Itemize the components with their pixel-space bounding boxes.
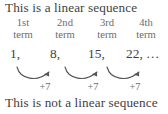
term-word-2: term [45, 29, 85, 41]
step-label-2: +7 [77, 81, 109, 93]
sequence-figure: This is a linear sequence 1st term 2nd t… [0, 0, 168, 114]
figure-caption-top: This is a linear sequence [5, 1, 137, 15]
term-header-3: 3rd term [87, 17, 127, 41]
step-label-3: +7 [119, 81, 151, 93]
term-word-4: term [126, 29, 166, 41]
sequence-value-4: 22, … [126, 45, 159, 63]
term-header-1: 1st term [3, 17, 43, 41]
term-word-3: term [87, 29, 127, 41]
term-header-4: 4th term [126, 17, 166, 41]
term-ordinal-2: 2nd [45, 17, 85, 29]
term-header-row: 1st term 2nd term 3rd term 4th term [0, 17, 168, 42]
term-word-1: term [3, 29, 43, 41]
figure-caption-bottom: This is not a linear sequence [5, 96, 158, 110]
term-header-2: 2nd term [45, 17, 85, 41]
sequence-value-3: 15, [88, 45, 105, 63]
sequence-value-2: 8, [50, 45, 60, 63]
term-ordinal-4: 4th [126, 17, 166, 29]
term-ordinal-3: 3rd [87, 17, 127, 29]
sequence-value-1: 1, [10, 45, 20, 63]
sequence-values-row: 1, 8, 15, 22, … [0, 45, 168, 63]
term-ordinal-1: 1st [3, 17, 43, 29]
step-label-1: +7 [29, 81, 61, 93]
